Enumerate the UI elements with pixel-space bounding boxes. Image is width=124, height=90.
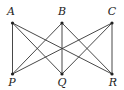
node-label-a: A: [6, 5, 15, 18]
node-label-b: B: [57, 5, 66, 18]
node-c: [110, 21, 113, 24]
node-label-q: Q: [57, 76, 66, 89]
node-a: [11, 21, 14, 24]
node-label-c: C: [108, 5, 117, 18]
node-label-p: P: [7, 76, 16, 89]
edges-group: [13, 23, 113, 74]
node-label-r: R: [108, 76, 117, 89]
bipartite-graph-diagram: ABCPQR: [0, 0, 124, 90]
node-b: [60, 21, 63, 24]
